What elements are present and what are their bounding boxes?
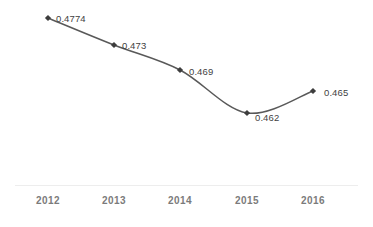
x-axis-line xyxy=(15,185,358,186)
data-point-marker-2014 xyxy=(177,67,183,73)
data-point-marker-2016 xyxy=(310,88,316,94)
data-label-2015: 0.462 xyxy=(255,113,279,123)
data-point-marker-2012 xyxy=(45,15,51,21)
series-line xyxy=(48,18,313,113)
x-tick-label-2016: 2016 xyxy=(301,196,325,206)
data-point-marker-2013 xyxy=(111,42,117,48)
x-tick-label-2015: 2015 xyxy=(235,196,259,206)
data-label-2016: 0.465 xyxy=(324,88,348,98)
data-label-2012: 0.4774 xyxy=(56,14,86,24)
chart-plot-area xyxy=(0,0,373,227)
data-label-2013: 0.473 xyxy=(122,41,146,51)
data-point-marker-2015 xyxy=(244,110,250,116)
series-markers xyxy=(45,15,316,116)
x-tick-label-2013: 2013 xyxy=(102,196,126,206)
x-tick-label-2012: 2012 xyxy=(36,196,60,206)
data-label-2014: 0.469 xyxy=(189,67,213,77)
line-chart: 0.4774 0.473 0.469 0.462 0.465 2012 2013… xyxy=(0,0,373,227)
x-tick-label-2014: 2014 xyxy=(168,196,192,206)
